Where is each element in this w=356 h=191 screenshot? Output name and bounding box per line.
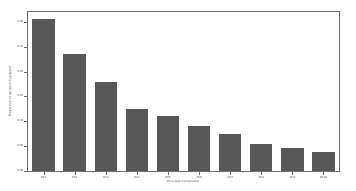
y-tick-label: 0.10 (17, 120, 23, 123)
x-tick-label-pc7: PC7 (228, 176, 233, 179)
bar-pc5 (157, 116, 179, 171)
x-tick-label-pc8: PC8 (259, 176, 264, 179)
y-axis-label: Proportion of Variance Explained (9, 66, 12, 116)
bar-pc4 (126, 109, 148, 171)
y-tick-label: 0.00 (17, 170, 23, 173)
bar-pc9 (281, 148, 303, 171)
y-tick-label: 0.15 (17, 95, 23, 98)
x-tick-label-pc10: PC10 (320, 176, 327, 179)
bar-pc1 (32, 19, 54, 171)
y-tick-label: 0.05 (17, 145, 23, 148)
y-tick-label: 0.20 (17, 70, 23, 73)
y-tick-label: 0.25 (17, 45, 23, 48)
x-tick-label-pc3: PC3 (103, 176, 108, 179)
y-tick-label: 0.30 (17, 21, 23, 24)
x-axis-label: Principal Component (167, 180, 199, 183)
bar-pc2 (63, 54, 85, 171)
bar-pc3 (95, 82, 117, 171)
bar-pc8 (250, 144, 272, 171)
x-tick-label-pc9: PC9 (290, 176, 295, 179)
x-tick-label-pc1: PC1 (41, 176, 46, 179)
x-tick-label-pc4: PC4 (134, 176, 139, 179)
bar-pc6 (188, 126, 210, 171)
bar-pc10 (312, 152, 334, 171)
scree-plot-figure: 0.000.050.100.150.200.250.30 Proportion … (0, 0, 356, 191)
x-tick-label-pc2: PC2 (72, 176, 77, 179)
bar-series (28, 12, 339, 171)
bar-pc7 (219, 134, 241, 171)
y-axis: 0.000.050.100.150.200.250.30 (0, 0, 27, 191)
